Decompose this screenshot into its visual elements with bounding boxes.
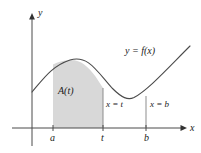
curve-equation-label: y = f(x) xyxy=(125,46,155,56)
y-axis-label: y xyxy=(38,8,42,18)
line-label-x-equals-t: x = t xyxy=(106,100,123,109)
tick-label-b: b xyxy=(144,133,149,143)
tick-label-t: t xyxy=(101,133,104,143)
figure-container: y x y = f(x) A(t) x = t x = b a t b xyxy=(0,0,201,153)
x-axis-arrow-icon xyxy=(181,125,188,131)
area-region-label: A(t) xyxy=(58,86,74,96)
y-axis-arrow-icon xyxy=(29,13,35,20)
x-axis-label: x xyxy=(190,123,194,133)
line-label-x-equals-b: x = b xyxy=(150,100,169,109)
tick-label-a: a xyxy=(50,133,55,143)
area-function-graph xyxy=(0,0,201,153)
